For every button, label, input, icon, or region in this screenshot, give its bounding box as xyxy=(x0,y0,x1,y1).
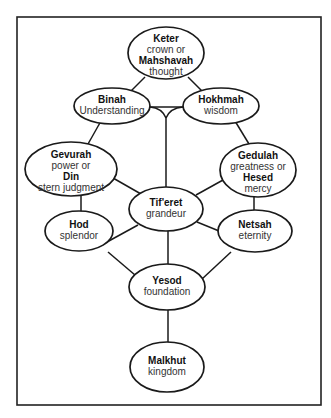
edge-keter-hokhmah xyxy=(188,77,202,91)
node-malkhut-meaning: kingdom xyxy=(148,366,186,377)
node-gevurah-alt-meaning: stern judgment xyxy=(38,182,104,193)
node-tiferet-name: Tif'eret xyxy=(150,197,183,208)
node-malkhut: Malkhut kingdom xyxy=(130,342,204,392)
edge-gevurah-tiferet xyxy=(113,178,141,194)
node-keter-name: Keter xyxy=(153,33,179,44)
edge-binah-tiferet-curve xyxy=(150,107,166,118)
node-gedulah-alt-name: Hesed xyxy=(243,172,273,183)
edge-netsah-yesod xyxy=(202,252,231,279)
node-gedulah-alt-meaning: mercy xyxy=(244,183,271,194)
node-hod-name: Hod xyxy=(69,219,88,230)
node-keter: Keter crown or Mahshavah thought xyxy=(128,27,204,79)
node-gedulah: Gedulah greatness or Hesed mercy xyxy=(220,143,296,197)
node-gevurah-meaning: power or xyxy=(52,160,92,171)
node-gevurah-alt-name: Din xyxy=(63,171,79,182)
node-malkhut-name: Malkhut xyxy=(148,355,186,366)
edge-hokhmah-gedulah xyxy=(235,121,249,144)
node-yesod: Yesod foundation xyxy=(129,264,205,310)
edge-hod-yesod xyxy=(108,252,135,275)
sefirot-diagram: Keter crown or Mahshavah thought Binah U… xyxy=(0,0,331,418)
node-netsah-meaning: eternity xyxy=(239,230,272,241)
node-hod-meaning: splendor xyxy=(60,230,99,241)
node-hokhmah-meaning: wisdom xyxy=(203,105,238,116)
node-hokhmah: Hokhmah wisdom xyxy=(183,88,259,124)
node-tiferet-meaning: grandeur xyxy=(146,208,187,219)
node-keter-alt-meaning: thought xyxy=(149,66,183,77)
node-binah: Binah Understanding xyxy=(74,88,150,124)
node-keter-meaning: crown or xyxy=(147,44,186,55)
node-keter-alt-name: Mahshavah xyxy=(139,55,193,66)
node-yesod-meaning: foundation xyxy=(144,286,191,297)
edge-keter-binah xyxy=(131,77,145,91)
node-hod: Hod splendor xyxy=(45,211,113,251)
node-binah-name: Binah xyxy=(98,94,126,105)
node-yesod-name: Yesod xyxy=(152,275,181,286)
node-netsah: Netsah eternity xyxy=(218,210,292,252)
node-netsah-name: Netsah xyxy=(238,219,271,230)
node-tiferet: Tif'eret grandeur xyxy=(129,187,203,231)
node-gevurah-name: Gevurah xyxy=(51,149,92,160)
edge-hokhmah-tiferet-curve xyxy=(166,107,183,118)
edge-gedulah-tiferet xyxy=(196,180,223,195)
node-hokhmah-name: Hokhmah xyxy=(198,94,244,105)
node-gedulah-meaning: greatness or xyxy=(230,161,286,172)
node-gedulah-name: Gedulah xyxy=(238,150,278,161)
node-binah-meaning: Understanding xyxy=(79,105,144,116)
edge-binah-gevurah xyxy=(88,121,101,144)
node-gevurah: Gevurah power or Din stern judgment xyxy=(25,142,117,196)
